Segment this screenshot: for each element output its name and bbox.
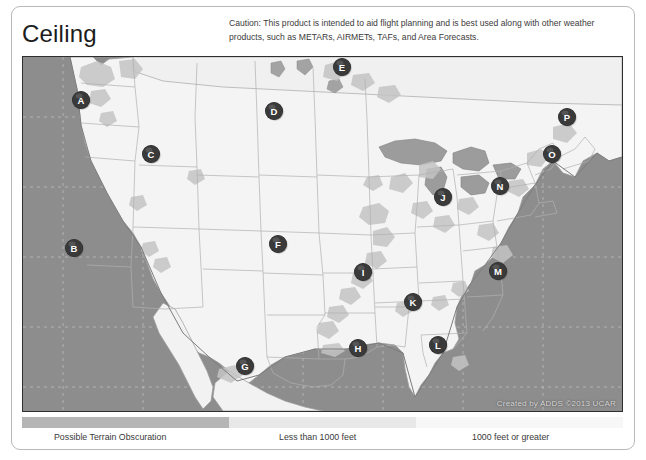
- map-marker-i[interactable]: I: [355, 264, 372, 281]
- map-marker-p[interactable]: P: [559, 109, 576, 126]
- legend-swatch-terrain: [22, 417, 229, 428]
- map-marker-k[interactable]: K: [405, 294, 422, 311]
- map-marker-m[interactable]: M: [490, 263, 507, 280]
- map-marker-f[interactable]: F: [270, 236, 287, 253]
- legend-labels: Possible Terrain Obscuration Less than 1…: [22, 432, 623, 446]
- map-marker-a[interactable]: A: [73, 92, 90, 109]
- legend-label-high: 1000 feet or greater: [472, 432, 549, 442]
- map-marker-o[interactable]: O: [544, 146, 561, 163]
- legend-color-bar: [22, 417, 623, 428]
- map-marker-h[interactable]: H: [350, 340, 367, 357]
- ceiling-product-page: Ceiling Caution: This product is intende…: [0, 0, 646, 460]
- map-marker-g[interactable]: G: [237, 358, 254, 375]
- legend-swatch-low: [229, 417, 415, 428]
- legend-label-terrain: Possible Terrain Obscuration: [54, 432, 166, 442]
- map-marker-j[interactable]: J: [435, 189, 452, 206]
- map-marker-b[interactable]: B: [66, 240, 83, 257]
- caution-text: Caution: This product is intended to aid…: [229, 17, 619, 44]
- map-marker-e[interactable]: E: [334, 59, 351, 76]
- map-marker-d[interactable]: D: [266, 103, 283, 120]
- ceiling-map[interactable]: A B C D E F G H I J K L M N O P Created …: [22, 56, 623, 412]
- page-title: Ceiling: [22, 20, 97, 48]
- legend-label-low: Less than 1000 feet: [279, 432, 356, 442]
- map-marker-n[interactable]: N: [492, 178, 509, 195]
- map-credit: Created by ADDS ©2013 UCAR: [497, 399, 616, 408]
- map-graphic: [23, 57, 622, 411]
- map-marker-l[interactable]: L: [430, 337, 447, 354]
- legend-swatch-high: [416, 417, 623, 428]
- map-marker-c[interactable]: C: [143, 146, 160, 163]
